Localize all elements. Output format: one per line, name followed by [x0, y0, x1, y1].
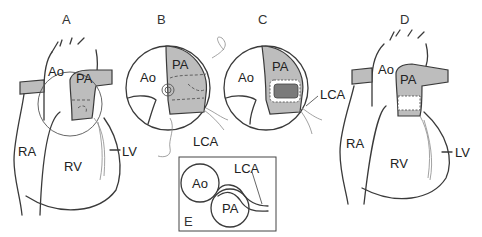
arch-branch-1 — [52, 40, 62, 52]
label-ao: Ao — [48, 64, 64, 79]
label-lv: LV — [455, 145, 470, 160]
label-rv: RV — [64, 159, 82, 174]
panel-c: C Ao PA LCA — [224, 12, 346, 134]
intrapulmonary-tunnel — [274, 84, 298, 98]
rv-septum — [364, 106, 386, 204]
label-ao: Ao — [192, 176, 208, 191]
label-lv: LV — [122, 144, 137, 159]
arch-branch-2 — [408, 30, 424, 38]
panel-e: Ao PA LCA E — [179, 157, 276, 231]
label-ra: RA — [18, 144, 36, 159]
panel-a-label: A — [62, 12, 71, 27]
label-pa: PA — [272, 59, 289, 74]
coronary-vessel — [420, 116, 432, 180]
panel-b-label: B — [157, 12, 166, 27]
label-pa: PA — [76, 71, 93, 86]
diagram-canvas: A Ao PA RA RV LV B Ao — [0, 0, 482, 237]
label-lca: LCA — [234, 161, 260, 176]
label-rv: RV — [390, 156, 408, 171]
patch-repair — [398, 96, 420, 110]
coronary-branch — [300, 108, 322, 134]
label-ao: Ao — [378, 62, 394, 77]
arch-branch-2 — [70, 38, 84, 44]
label-pa: PA — [222, 201, 239, 216]
label-ra: RA — [346, 136, 364, 151]
label-pa: PA — [400, 72, 417, 87]
rv-septum — [40, 112, 60, 215]
label-ao: Ao — [140, 70, 156, 85]
panel-e-label: E — [184, 214, 193, 229]
panel-c-label: C — [258, 12, 267, 27]
panel-d: D Ao PA RA RV LV — [340, 12, 470, 204]
arch-branch-1 — [390, 30, 400, 40]
svc-band — [352, 68, 372, 84]
label-lca: LCA — [193, 134, 219, 149]
lca-leader — [306, 96, 318, 106]
label-lca: LCA — [320, 87, 346, 102]
coronary-vessel — [94, 118, 105, 180]
panel-a: A Ao PA RA RV LV — [14, 12, 137, 215]
label-pa: PA — [172, 57, 189, 72]
panel-d-label: D — [400, 12, 409, 27]
label-ao: Ao — [238, 70, 254, 85]
coronary-branch — [204, 108, 228, 130]
panel-b: B Ao PA LCA — [126, 12, 228, 157]
